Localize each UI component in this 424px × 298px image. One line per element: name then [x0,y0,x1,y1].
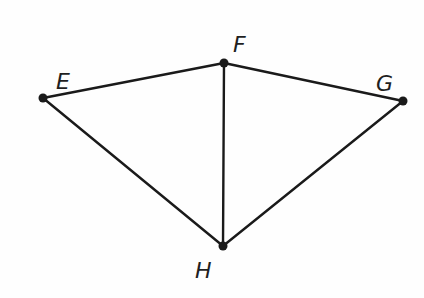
segment-fh [223,63,224,246]
label-f: F [233,32,246,57]
label-e: E [56,69,70,94]
segment-ef [43,63,224,98]
point-g-icon [399,97,408,106]
segment-gh [223,101,403,246]
point-e-icon [39,94,48,103]
segment-eh [43,98,223,246]
point-f-icon [220,59,229,68]
geometry-diagram: E F G H [0,0,424,298]
segments-group [43,63,403,246]
label-g: G [376,71,393,96]
label-h: H [195,258,212,283]
point-h-icon [219,242,228,251]
diagram-canvas: E F G H [0,0,424,298]
